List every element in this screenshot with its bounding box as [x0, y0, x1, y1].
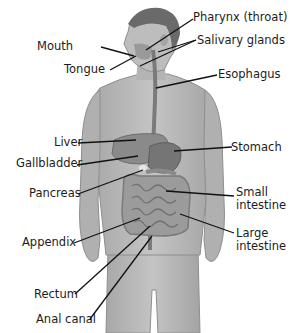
label-liver: Liver: [54, 136, 82, 149]
stomach-shape: [148, 142, 181, 173]
label-stomach: Stomach: [231, 141, 282, 154]
label-appendix: Appendix: [22, 236, 76, 249]
large-intestine-shape: [122, 174, 190, 236]
label-tongue: Tongue: [64, 63, 105, 76]
label-rectum: Rectum: [34, 288, 78, 301]
label-pharynx: Pharynx (throat): [193, 11, 287, 24]
label-gallbladder: Gallbladder: [16, 157, 82, 170]
label-pancreas: Pancreas: [29, 187, 81, 200]
label-anal-canal: Anal canal: [36, 313, 96, 326]
label-mouth: Mouth: [37, 40, 73, 53]
label-large-intestine-line2: intestine: [236, 240, 286, 253]
label-esophagus: Esophagus: [218, 68, 281, 81]
label-salivary-glands: Salivary glands: [197, 34, 285, 47]
digestive-system-diagram: Mouth Tongue Liver Gallbladder Pancreas …: [0, 0, 291, 333]
label-small-intestine-line2: intestine: [236, 199, 286, 212]
